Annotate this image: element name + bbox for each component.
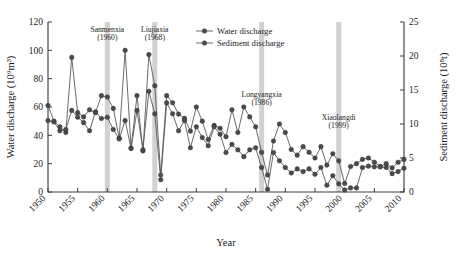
data-point	[164, 93, 169, 98]
data-point	[236, 148, 241, 153]
x-tick-label: 1985	[235, 193, 256, 214]
data-point	[170, 100, 175, 105]
data-point	[295, 167, 300, 172]
y-right-tick-label: 20	[409, 51, 419, 61]
data-point	[360, 157, 365, 162]
data-point	[230, 142, 235, 147]
data-point	[188, 129, 193, 134]
data-point	[265, 187, 270, 192]
data-point	[224, 134, 229, 139]
data-point	[390, 171, 395, 176]
data-point	[301, 144, 306, 149]
data-point	[81, 120, 86, 125]
data-point	[319, 144, 324, 149]
data-point	[336, 182, 341, 187]
data-point	[396, 169, 401, 174]
data-point	[283, 130, 288, 135]
x-axis-title: Year	[216, 237, 236, 248]
data-point	[289, 171, 294, 176]
data-point	[135, 108, 140, 113]
data-point	[81, 115, 86, 120]
y-right-tick-label: 25	[409, 17, 419, 27]
chart-figure: 1950195519601965197019751980198519901995…	[0, 0, 457, 254]
data-point	[402, 166, 407, 171]
data-point	[366, 164, 371, 169]
data-point	[153, 112, 158, 117]
data-point	[111, 106, 116, 111]
data-point	[69, 108, 74, 113]
data-point	[295, 153, 300, 158]
y-left-tick-label: 60	[34, 102, 44, 112]
data-point	[307, 167, 312, 172]
y-left-tick-label: 0	[38, 187, 43, 197]
y-left-tick-label: 100	[29, 46, 44, 56]
data-point	[105, 115, 110, 120]
y-right-axis-title: Sediment discharge (10⁸t)	[438, 52, 450, 162]
y-right-tick-label: 5	[409, 153, 414, 163]
data-point	[87, 129, 92, 134]
data-point	[247, 115, 252, 120]
legend-label-1: Sediment discharge	[217, 38, 285, 48]
data-point	[147, 89, 152, 94]
data-point	[129, 146, 134, 151]
event-label-year-3: (1999)	[329, 121, 350, 130]
series-line-1	[48, 91, 404, 190]
data-point	[253, 146, 258, 151]
data-point	[325, 183, 330, 188]
data-point	[188, 146, 193, 151]
x-tick-label: 1970	[146, 193, 167, 214]
data-point	[336, 159, 341, 164]
data-point	[212, 124, 217, 129]
y-right-tick-label: 15	[409, 85, 419, 95]
y-right-ticks: 0510152025	[400, 17, 419, 197]
legend-marker-0	[202, 29, 207, 34]
data-point	[372, 165, 377, 170]
data-point	[348, 186, 353, 191]
data-point	[141, 148, 146, 153]
y-left-tick-label: 20	[34, 159, 44, 169]
x-tick-label: 1990	[264, 193, 285, 214]
y-left-tick-label: 40	[34, 131, 44, 141]
data-point	[342, 188, 347, 193]
data-point	[242, 105, 247, 110]
data-point	[354, 186, 359, 191]
data-point	[378, 165, 383, 170]
data-point	[247, 148, 252, 153]
data-point	[200, 135, 205, 140]
data-point	[69, 55, 74, 60]
data-point	[176, 129, 181, 134]
data-point	[111, 127, 116, 132]
data-point	[390, 166, 395, 171]
data-point	[87, 108, 92, 113]
data-point	[75, 110, 80, 115]
data-point	[218, 132, 223, 137]
data-point	[206, 143, 211, 148]
legend-group: Water dischargeSediment discharge	[196, 26, 285, 48]
x-tick-label: 1960	[86, 193, 107, 214]
data-point	[259, 150, 264, 155]
data-point	[99, 116, 104, 121]
data-point	[117, 137, 122, 142]
data-point	[105, 95, 110, 100]
data-point	[218, 126, 223, 131]
data-point	[331, 173, 336, 178]
data-point	[147, 52, 152, 57]
data-point	[319, 165, 324, 170]
data-point	[277, 122, 282, 127]
x-tick-label: 2005	[353, 193, 374, 214]
data-point	[360, 165, 365, 170]
event-label-year-2: (1986)	[251, 98, 272, 107]
data-point	[230, 108, 235, 113]
data-point	[384, 165, 389, 170]
event-band-0	[105, 22, 110, 192]
data-point	[224, 150, 229, 155]
data-point	[271, 150, 276, 155]
data-point	[348, 164, 353, 169]
y-right-tick-label: 0	[409, 187, 414, 197]
data-point	[271, 139, 276, 144]
data-point	[58, 129, 63, 134]
data-point	[123, 118, 128, 123]
y-left-tick-label: 120	[29, 17, 44, 27]
data-point	[283, 165, 288, 170]
x-tick-label: 2010	[383, 193, 404, 214]
